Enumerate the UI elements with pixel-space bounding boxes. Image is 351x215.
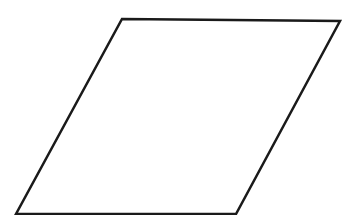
parallelogram-shape bbox=[16, 19, 340, 214]
diagram-canvas bbox=[0, 0, 351, 215]
